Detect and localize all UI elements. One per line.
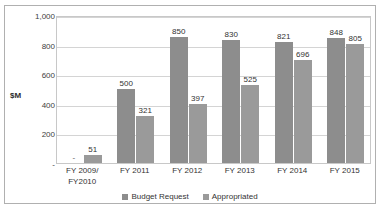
x-axis-label-line: FY 2009/ bbox=[56, 166, 109, 177]
x-axis-label-5: FY 2015 bbox=[319, 166, 372, 177]
legend-item-appropriated[interactable]: Appropriated bbox=[203, 192, 258, 201]
bar-series-layer: -51500321850397830525821696848805 bbox=[57, 17, 370, 163]
bar-group: 821696 bbox=[275, 17, 312, 163]
y-axis-tick-labels: -2004006008001,000 bbox=[11, 16, 55, 164]
x-axis-label-line: FY 2011 bbox=[109, 166, 162, 177]
y-axis-tick-1: 200 bbox=[11, 130, 55, 139]
x-axis-label-4: FY 2014 bbox=[266, 166, 319, 177]
bar-rect[interactable] bbox=[170, 37, 188, 163]
bar-value-label: 830 bbox=[225, 30, 238, 39]
x-axis-label-2: FY 2012 bbox=[161, 166, 214, 177]
x-axis-label-line: FY 2012 bbox=[161, 166, 214, 177]
bar-group: 830525 bbox=[222, 17, 259, 163]
bar-value-label: 850 bbox=[172, 27, 185, 36]
legend-label: Budget Request bbox=[131, 192, 188, 201]
y-axis-tick-3: 600 bbox=[11, 71, 55, 80]
bar-value-label: 500 bbox=[120, 79, 133, 88]
bar-rect[interactable] bbox=[189, 104, 207, 163]
bar-group: 500321 bbox=[117, 17, 154, 163]
bar-value-label: 848 bbox=[330, 28, 343, 37]
plot-area: -51500321850397830525821696848805 bbox=[56, 16, 371, 164]
bar-group: -51 bbox=[65, 17, 102, 163]
x-axis-label-line: FY 2015 bbox=[319, 166, 372, 177]
bar-rect[interactable] bbox=[346, 44, 364, 163]
y-axis-tick-2: 400 bbox=[11, 100, 55, 109]
x-axis-label-1: FY 2011 bbox=[109, 166, 162, 177]
x-axis-label-0: FY 2009/FY2010 bbox=[56, 166, 109, 187]
legend-item-budget-request[interactable]: Budget Request bbox=[122, 192, 188, 201]
x-axis-label-line: FY 2013 bbox=[214, 166, 267, 177]
bar-value-label: 821 bbox=[277, 32, 290, 41]
bar-group: 850397 bbox=[170, 17, 207, 163]
bar-value-label: 525 bbox=[244, 75, 257, 84]
bar-rect[interactable] bbox=[294, 60, 312, 163]
bar-value-label: 805 bbox=[349, 34, 362, 43]
bar-value-label: 696 bbox=[296, 50, 309, 59]
x-axis-label-line: FY2010 bbox=[56, 177, 109, 188]
chart-legend: Budget RequestAppropriated bbox=[5, 192, 375, 201]
bar-rect[interactable] bbox=[241, 85, 259, 163]
chart-container: $M -2004006008001,000 -51500321850397830… bbox=[4, 5, 376, 204]
bar-rect[interactable] bbox=[117, 89, 135, 163]
x-axis-label-line: FY 2014 bbox=[266, 166, 319, 177]
legend-swatch-icon bbox=[203, 194, 209, 200]
bar-rect[interactable] bbox=[136, 116, 154, 164]
x-axis-category-labels: FY 2009/FY2010FY 2011FY 2012FY 2013FY 20… bbox=[56, 166, 371, 194]
legend-swatch-icon bbox=[122, 194, 128, 200]
bar-value-label: 321 bbox=[139, 106, 152, 115]
bar-zero-dash: - bbox=[72, 155, 75, 161]
y-axis-tick-0: - bbox=[11, 160, 55, 169]
y-axis-tick-4: 800 bbox=[11, 41, 55, 50]
bar-rect[interactable] bbox=[327, 38, 345, 164]
bar-rect[interactable] bbox=[222, 40, 240, 163]
bar-value-label: 51 bbox=[88, 145, 97, 154]
y-axis-tick-5: 1,000 bbox=[11, 12, 55, 21]
bar-rect[interactable] bbox=[84, 155, 102, 163]
bar-value-label: 397 bbox=[191, 94, 204, 103]
bar-group: 848805 bbox=[327, 17, 364, 163]
x-axis-label-3: FY 2013 bbox=[214, 166, 267, 177]
bar-rect[interactable] bbox=[275, 42, 293, 164]
legend-label: Appropriated bbox=[212, 192, 258, 201]
